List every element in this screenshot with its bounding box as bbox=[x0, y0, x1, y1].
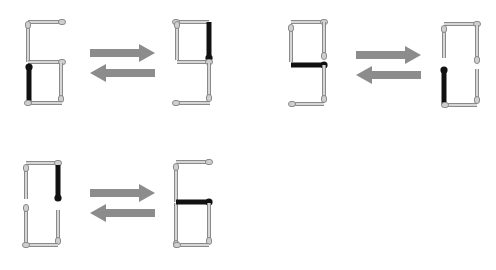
matchstick bbox=[442, 103, 478, 108]
match-head bbox=[475, 57, 480, 64]
match-head bbox=[322, 96, 327, 103]
match-head bbox=[24, 165, 29, 172]
match-head bbox=[442, 103, 449, 108]
background bbox=[0, 0, 496, 270]
matchstick bbox=[207, 203, 212, 245]
matchstick bbox=[56, 210, 61, 245]
matchstick bbox=[59, 63, 64, 103]
match-head bbox=[207, 95, 212, 102]
match-head bbox=[440, 66, 447, 73]
matchstick bbox=[442, 26, 447, 59]
matchstick bbox=[175, 22, 180, 61]
match-head bbox=[475, 97, 480, 104]
matchstick bbox=[28, 20, 66, 25]
matchstick bbox=[24, 205, 29, 245]
matchstick bbox=[26, 22, 31, 63]
match-head bbox=[59, 20, 66, 25]
match-head bbox=[206, 160, 213, 165]
matchstick bbox=[322, 22, 327, 60]
match-head bbox=[289, 25, 294, 32]
matchstick bbox=[475, 25, 480, 64]
match-head bbox=[25, 63, 32, 70]
match-head bbox=[175, 22, 180, 29]
matchstick bbox=[173, 101, 211, 106]
matchstick bbox=[322, 65, 327, 103]
match-head bbox=[55, 161, 62, 166]
match-head bbox=[24, 205, 29, 212]
match-head bbox=[289, 102, 296, 107]
match-head bbox=[23, 243, 30, 248]
match-head bbox=[54, 194, 61, 201]
matchstick bbox=[289, 102, 325, 107]
match-head bbox=[442, 26, 447, 33]
match-head bbox=[174, 164, 179, 171]
matchstick bbox=[176, 160, 213, 165]
match-head bbox=[173, 101, 180, 106]
matchstick bbox=[475, 69, 480, 104]
matchstick bbox=[174, 203, 179, 248]
match-head bbox=[25, 101, 32, 106]
matchstick bbox=[24, 165, 29, 200]
matchstick bbox=[26, 161, 62, 166]
match-head bbox=[26, 22, 31, 29]
matchstick bbox=[174, 243, 210, 248]
match-head bbox=[322, 53, 327, 60]
matchstick bbox=[174, 164, 179, 203]
matchstick bbox=[25, 101, 63, 106]
matchstick-diagram bbox=[0, 0, 496, 270]
matchstick bbox=[207, 63, 212, 102]
matchstick bbox=[23, 243, 59, 248]
match-head bbox=[174, 243, 181, 248]
matchstick bbox=[289, 25, 294, 63]
